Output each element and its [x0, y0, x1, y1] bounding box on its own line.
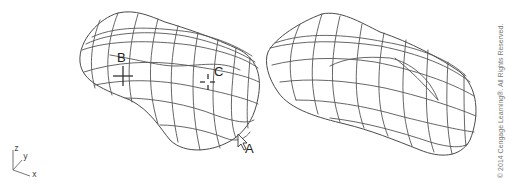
figure-canvas: [0, 0, 508, 187]
axis-y-label: y: [23, 153, 28, 161]
point-b-label: B: [117, 51, 126, 64]
axis-z-label: z: [14, 145, 19, 153]
right-wireframe-model: [266, 13, 476, 155]
left-wireframe-model: [80, 12, 260, 150]
copyright-notice: © 2014 Cengage Learning®. All Rights Res…: [497, 24, 504, 178]
axis-x-label: x: [32, 171, 37, 179]
point-c-label: C: [214, 65, 223, 78]
crosshair-marker-b: [113, 66, 133, 86]
point-a-label: A: [245, 142, 254, 155]
